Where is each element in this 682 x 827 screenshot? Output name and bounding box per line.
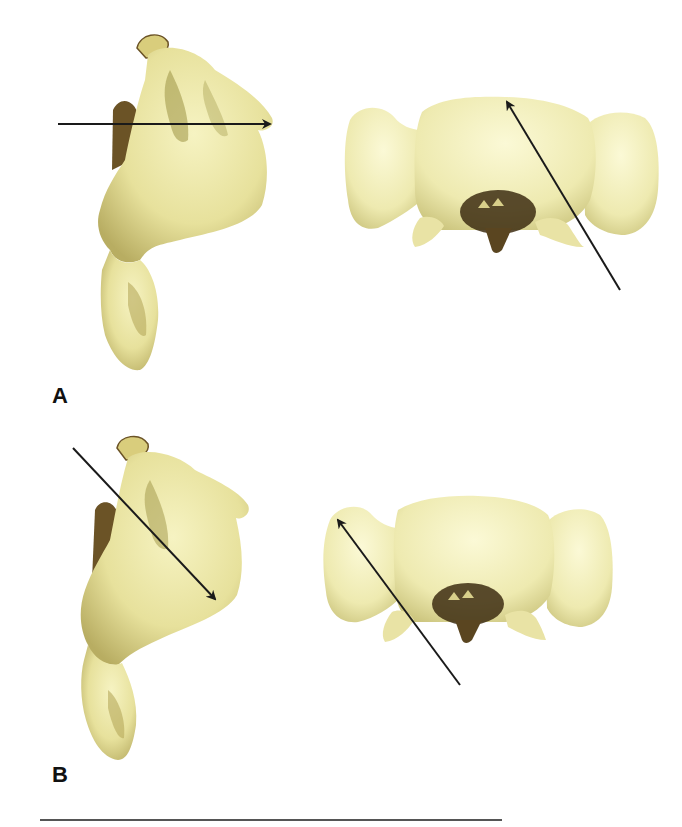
caption-divider (40, 819, 502, 821)
panel-label-a: A (52, 383, 68, 409)
panel-b-superior-bone (323, 496, 612, 643)
panel-a-superior-bone (345, 97, 659, 253)
anatomical-figure (0, 0, 682, 827)
panel-b-lateral-bone (81, 436, 249, 760)
panel-label-b: B (52, 762, 68, 788)
panel-a-lateral-bone (98, 35, 273, 370)
